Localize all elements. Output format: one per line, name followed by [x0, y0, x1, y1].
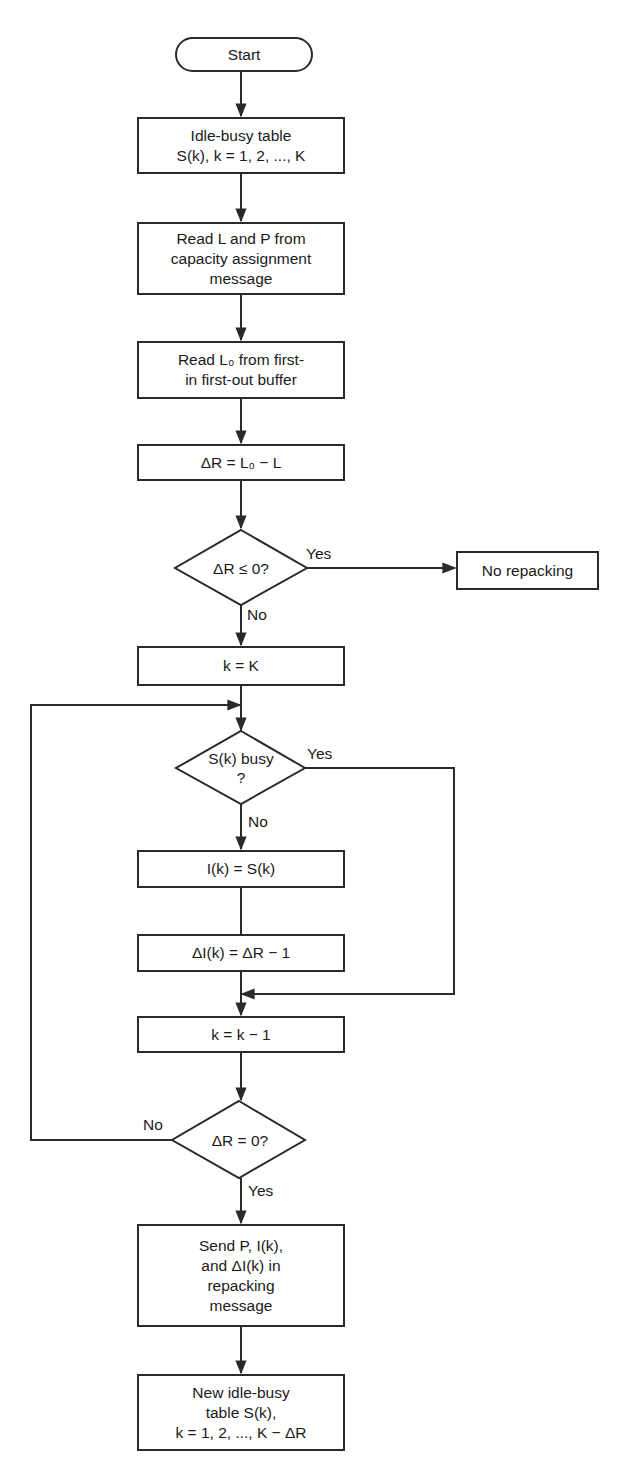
new-table-box: New idle-busy table S(k), k = 1, 2, ...,…	[137, 1374, 345, 1451]
decision-delta-r-le-0: ΔR ≤ 0?	[185, 555, 297, 581]
decision1-yes-label: Yes	[306, 545, 331, 563]
decision3-no-label: No	[143, 1116, 163, 1134]
decision-delta-r-eq-0-label: ΔR = 0?	[212, 1131, 268, 1150]
decision2-no-label: No	[248, 813, 268, 831]
read-l0-box: Read L₀ from first- in first-out buffer	[137, 341, 345, 399]
delta-i-label: ΔI(k) = ΔR − 1	[192, 943, 290, 963]
k-equals-K-label: k = K	[223, 656, 259, 676]
no-repacking-label: No repacking	[482, 561, 573, 581]
k-equals-K-box: k = K	[137, 646, 345, 686]
decision-sk-busy-label: S(k) busy ?	[208, 749, 273, 787]
idle-busy-table-box: Idle-busy table S(k), k = 1, 2, ..., K	[137, 117, 345, 174]
read-l-p-label: Read L and P from capacity assignment me…	[171, 229, 311, 289]
k-decrement-box: k = k − 1	[137, 1016, 345, 1053]
new-table-label: New idle-busy table S(k), k = 1, 2, ...,…	[176, 1383, 307, 1443]
read-l0-label: Read L₀ from first- in first-out buffer	[178, 350, 304, 390]
no-repacking-box: No repacking	[456, 551, 599, 590]
send-message-label: Send P, I(k), and ΔI(k) in repacking mes…	[199, 1236, 283, 1316]
decision-delta-r-le-0-label: ΔR ≤ 0?	[213, 559, 269, 578]
read-l-p-box: Read L and P from capacity assignment me…	[137, 222, 345, 295]
decision2-yes-label: Yes	[307, 745, 332, 763]
decision1-no-label: No	[247, 606, 267, 624]
delta-r-label: ΔR = L₀ − L	[201, 453, 282, 473]
idle-busy-table-label: Idle-busy table S(k), k = 1, 2, ..., K	[177, 126, 306, 166]
delta-r-box: ΔR = L₀ − L	[137, 444, 345, 481]
delta-i-box: ΔI(k) = ΔR − 1	[137, 934, 345, 972]
k-decrement-label: k = k − 1	[211, 1025, 270, 1045]
decision3-yes-label: Yes	[248, 1182, 273, 1200]
start-label: Start	[228, 45, 261, 65]
start-terminal: Start	[175, 37, 313, 72]
i-equals-s-box: I(k) = S(k)	[137, 850, 345, 888]
i-equals-s-label: I(k) = S(k)	[207, 859, 275, 879]
decision-delta-r-eq-0: ΔR = 0?	[185, 1127, 295, 1153]
decision-sk-busy: S(k) busy ?	[190, 748, 292, 788]
send-message-box: Send P, I(k), and ΔI(k) in repacking mes…	[137, 1224, 345, 1327]
